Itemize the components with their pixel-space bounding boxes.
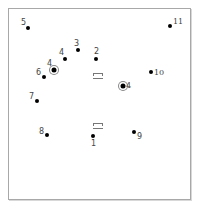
point-label: 10 (154, 69, 164, 77)
point-label: 5 (21, 19, 26, 27)
point-marker (149, 70, 153, 74)
point-marker (45, 133, 49, 137)
diagram-frame (8, 8, 191, 200)
point-label: 4 (126, 82, 131, 90)
point-label: 2 (94, 48, 99, 56)
point-marker (63, 57, 67, 61)
point-label: 3 (74, 40, 79, 48)
bracket-lower-symbol (93, 123, 103, 129)
point-label: 11 (173, 18, 183, 26)
point-marker (132, 130, 136, 134)
bracket-upper-symbol (93, 73, 103, 79)
point-marker (76, 48, 80, 52)
point-marker (35, 99, 39, 103)
point-label: 8 (39, 128, 44, 136)
ringed-point-marker (121, 84, 126, 89)
point-marker (42, 75, 46, 79)
point-label: 9 (137, 133, 142, 141)
point-label: 6 (36, 69, 41, 77)
point-marker (91, 134, 95, 138)
point-marker (26, 26, 30, 30)
point-marker (168, 24, 172, 28)
point-label: 4 (59, 49, 64, 57)
point-label: 7 (29, 93, 34, 101)
point-label: 1 (91, 140, 96, 148)
ringed-point-marker (52, 68, 57, 73)
point-marker (94, 57, 98, 61)
point-label: 4 (47, 60, 52, 68)
